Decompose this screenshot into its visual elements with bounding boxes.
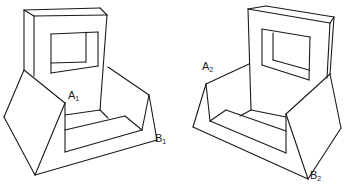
edge-line (240, 110, 251, 116)
figure-canvas: A1 B1 A2 B2 (0, 0, 349, 194)
edge-line (34, 15, 107, 16)
edge-line (51, 62, 86, 63)
view-1-object (4, 8, 157, 175)
edge-line (206, 84, 210, 121)
edge-line (24, 70, 65, 103)
edge-line (100, 15, 107, 110)
edge-line (51, 66, 98, 73)
line-drawing (0, 0, 349, 194)
label-b2: B2 (310, 170, 321, 182)
edge-line (4, 117, 35, 175)
edge-line (125, 116, 142, 130)
edge-line (24, 10, 34, 16)
edge-line (4, 70, 24, 117)
edge-line (248, 9, 251, 110)
edge-line (35, 103, 65, 175)
edge-line (262, 29, 310, 37)
edge-line (248, 6, 266, 9)
edge-line (330, 74, 341, 128)
edge-line (330, 17, 334, 74)
edge-line (65, 130, 142, 152)
edge-line (65, 110, 100, 115)
view-2-object (193, 6, 341, 179)
edge-line (251, 110, 286, 117)
edge-line (226, 110, 286, 131)
edge-line (100, 110, 108, 118)
edge-line (266, 6, 334, 17)
edge-line (327, 23, 330, 78)
edge-line (24, 8, 100, 10)
edge-line (286, 114, 308, 179)
edge-line (193, 127, 308, 179)
edge-line (262, 65, 309, 80)
edge-line (142, 95, 149, 130)
edge-line (309, 37, 310, 80)
edge-line (100, 8, 107, 15)
edge-line (108, 67, 149, 95)
edge-line (248, 9, 330, 23)
label-a2: A2 (202, 61, 213, 73)
label-a1: A1 (68, 90, 79, 102)
edge-line (35, 140, 157, 175)
edge-line (193, 84, 206, 127)
edge-line (210, 121, 286, 153)
edge-line (51, 32, 98, 34)
label-b1: B1 (155, 133, 166, 145)
edge-line (273, 60, 309, 70)
edge-line (65, 116, 125, 130)
edge-line (210, 110, 226, 121)
